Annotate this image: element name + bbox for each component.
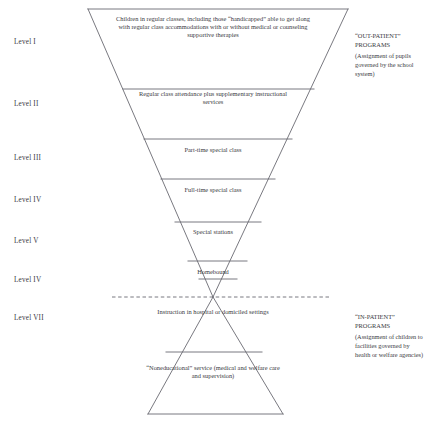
- level-label-4: Level IV: [14, 196, 41, 204]
- outpatient-body: (Assignment of pupils governed by the sc…: [355, 52, 423, 79]
- tier-text-1: Children in regular classes, including t…: [112, 15, 314, 38]
- inpatient-body: (Assignment of children to facilities go…: [355, 333, 423, 360]
- level-label-1: Level I: [14, 38, 36, 46]
- tier-text-5: Special stations: [166, 228, 260, 236]
- tier-text-7: Instruction in hospital or domiciled set…: [152, 308, 274, 316]
- tier-text-4: Full-time special class: [156, 186, 270, 194]
- inpatient-heading: “IN-PATIENT” PROGRAMS: [355, 313, 423, 330]
- level-label-2: Level II: [14, 100, 39, 108]
- tier-text-6: Homebound: [170, 268, 256, 276]
- level-label-7: Level VII: [14, 314, 44, 322]
- level-label-5: Level V: [14, 237, 39, 245]
- level-label-3: Level III: [14, 154, 41, 162]
- tier-text-8: “Noneducational” service (medical and we…: [146, 364, 280, 380]
- figure-root: Level I Level II Level III Level IV Leve…: [0, 0, 425, 424]
- level-label-6: Level IV: [14, 276, 41, 284]
- outpatient-heading: “OUT-PATIENT” PROGRAMS: [355, 32, 423, 49]
- tier-text-3: Part-time special class: [150, 146, 276, 154]
- tier-text-2: Regular class attendance plus supplement…: [130, 90, 296, 106]
